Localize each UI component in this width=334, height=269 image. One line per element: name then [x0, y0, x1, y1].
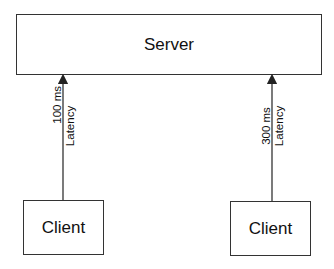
client-label: Client: [42, 218, 85, 238]
client-label: Client: [249, 219, 292, 239]
latency-label-left: 100 ms Latency: [51, 86, 77, 166]
latency-label-right: 300 ms Latency: [260, 86, 286, 166]
client-node-left: Client: [23, 200, 104, 255]
client-node-right: Client: [230, 201, 311, 256]
